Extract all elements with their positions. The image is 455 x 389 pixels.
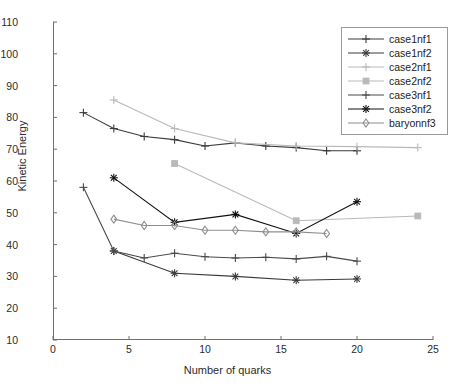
y-tick-label: 10 bbox=[0, 335, 18, 345]
x-tick-label: 10 bbox=[185, 344, 225, 354]
x-tick-label: 25 bbox=[413, 344, 453, 354]
legend-marker-diamond-icon bbox=[346, 116, 386, 130]
legend-marker-plus-icon bbox=[346, 88, 386, 102]
legend-item-baryonnf3[interactable]: baryonnf3 bbox=[342, 116, 447, 130]
legend-marker-square-icon bbox=[346, 74, 386, 88]
legend-label: case3nf2 bbox=[389, 103, 432, 115]
x-tick-label: 20 bbox=[337, 344, 377, 354]
legend-label: case2nf2 bbox=[389, 75, 432, 87]
x-tick-label: 15 bbox=[261, 344, 301, 354]
y-tick-label: 100 bbox=[0, 49, 18, 59]
legend-marker-star-icon bbox=[346, 46, 386, 60]
legend-marker-star-icon bbox=[346, 102, 386, 116]
legend-label: case1nf2 bbox=[389, 47, 432, 59]
legend-item-case3nf1[interactable]: case3nf1 bbox=[342, 88, 447, 102]
y-tick-label: 110 bbox=[0, 17, 18, 27]
legend-marker-plus-icon bbox=[346, 60, 386, 74]
legend-label: case2nf1 bbox=[389, 61, 432, 73]
x-axis-label: Number of quarks bbox=[0, 364, 455, 376]
x-tick-label: 0 bbox=[33, 344, 73, 354]
legend-label: case1nf1 bbox=[389, 33, 432, 45]
legend-label: case3nf1 bbox=[389, 89, 432, 101]
legend-item-case1nf1[interactable]: case1nf1 bbox=[342, 32, 447, 46]
legend-label: baryonnf3 bbox=[389, 117, 436, 129]
legend-item-case2nf1[interactable]: case2nf1 bbox=[342, 60, 447, 74]
legend-item-case1nf2[interactable]: case1nf2 bbox=[342, 46, 447, 60]
chart-legend: case1nf1case1nf2case2nf1case2nf2case3nf1… bbox=[341, 27, 448, 135]
legend-marker-plus-icon bbox=[346, 32, 386, 46]
y-tick-label: 20 bbox=[0, 303, 18, 313]
legend-item-case2nf2[interactable]: case2nf2 bbox=[342, 74, 447, 88]
legend-item-case3nf2[interactable]: case3nf2 bbox=[342, 102, 447, 116]
y-tick-label: 30 bbox=[0, 271, 18, 281]
y-axis-label: Kinetic Energy bbox=[16, 86, 28, 226]
y-tick-label: 40 bbox=[0, 240, 18, 250]
x-tick-label: 5 bbox=[109, 344, 149, 354]
chart-figure: 1020304050607080901001100510152025 Numbe… bbox=[0, 0, 455, 389]
